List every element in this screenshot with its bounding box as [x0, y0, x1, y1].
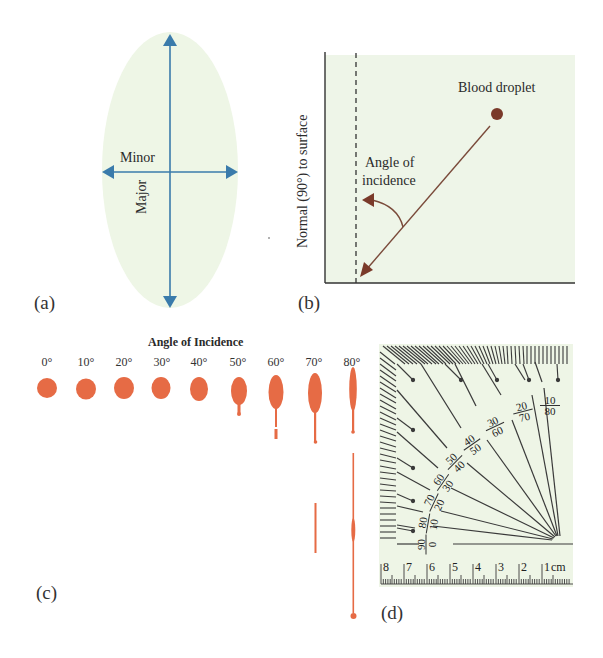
- panel-a: Minor Major (a): [0, 0, 290, 320]
- panel-b: Normal (90°) to surface Blood droplet An…: [290, 0, 603, 320]
- ruler-num-2: 2: [521, 560, 527, 575]
- panel-b-label: (b): [298, 292, 320, 314]
- ruler-num-6: 6: [429, 560, 435, 575]
- ruler-unit: cm: [551, 560, 566, 575]
- ruler-num-1: 1: [544, 560, 550, 575]
- panel-d-label: (d): [381, 602, 403, 624]
- angle-label-line1: Angle of: [365, 155, 414, 171]
- ruler-num-5: 5: [452, 560, 458, 575]
- incidence-diagram: [290, 0, 603, 320]
- fraction-90-0: 90 0: [416, 535, 437, 555]
- panel-a-label: (a): [34, 292, 55, 314]
- major-axis-label: Major: [134, 180, 150, 214]
- ruler-num-8: 8: [383, 560, 389, 575]
- ruler-num-4: 4: [475, 560, 481, 575]
- panel-c: Angle of Incidence 0° 10° 20° 30° 40° 50…: [0, 325, 375, 658]
- y-axis-label: Normal (90°) to surface: [295, 115, 311, 249]
- panel-c-label: (c): [36, 582, 57, 604]
- protractor-template: [375, 340, 603, 590]
- fraction-10-80: 10 80: [540, 395, 560, 416]
- blood-droplet-label: Blood droplet: [458, 80, 535, 96]
- angle-label-line2: incidence: [362, 173, 416, 189]
- ruler-num-3: 3: [498, 560, 504, 575]
- cm-ruler: 8 7 6 5 4 3 2 1 cm: [379, 558, 573, 586]
- fraction-80-10: 80 10: [416, 512, 440, 535]
- ruler-num-7: 7: [406, 560, 412, 575]
- minor-axis-label: Minor: [120, 150, 155, 166]
- panel-d: 10 80 20 70 30 60 40 50 50 40 60 30 70 2…: [375, 340, 603, 658]
- bloodstain-shapes: [0, 325, 375, 658]
